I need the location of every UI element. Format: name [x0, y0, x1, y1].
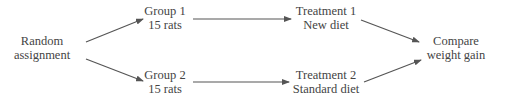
node-group2-line1: Group 2 — [140, 68, 190, 82]
node-random-assignment: Random assignment — [2, 34, 82, 62]
arrow-treatment1-to-compare — [361, 20, 419, 42]
node-random-line2: assignment — [2, 48, 82, 62]
node-group1-line1: Group 1 — [140, 4, 190, 18]
node-compare-line2: weight gain — [420, 48, 492, 62]
node-group2: Group 2 15 rats — [140, 68, 190, 96]
arrow-random-to-group1 — [86, 19, 143, 42]
node-group1-line2: 15 rats — [140, 18, 190, 32]
node-treatment1: Treatment 1 New diet — [288, 4, 364, 32]
node-compare-line1: Compare — [420, 34, 492, 48]
node-compare-weight-gain: Compare weight gain — [420, 34, 492, 62]
node-group1: Group 1 15 rats — [140, 4, 190, 32]
node-treatment1-line2: New diet — [288, 18, 364, 32]
node-group2-line2: 15 rats — [140, 82, 190, 96]
arrow-random-to-group2 — [86, 59, 143, 81]
node-treatment2-line2: Standard diet — [286, 82, 366, 96]
node-treatment2-line1: Treatment 2 — [286, 68, 366, 82]
node-treatment2: Treatment 2 Standard diet — [286, 68, 366, 96]
node-treatment1-line1: Treatment 1 — [288, 4, 364, 18]
arrow-treatment2-to-compare — [364, 60, 421, 82]
node-random-line1: Random — [2, 34, 82, 48]
